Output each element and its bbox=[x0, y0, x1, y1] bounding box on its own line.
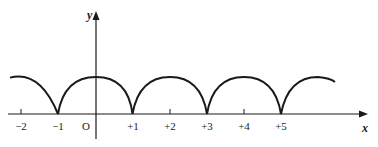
tick-label: +1 bbox=[127, 120, 139, 132]
x-axis-label: x bbox=[361, 121, 368, 135]
tick-label: +5 bbox=[275, 120, 287, 132]
tick-label: −2 bbox=[15, 120, 27, 132]
diagram-canvas: −2 −1 O +1 +2 +3 +4 +5 y x bbox=[0, 0, 378, 147]
tick-label: +4 bbox=[238, 120, 250, 132]
tick-label: +2 bbox=[164, 120, 176, 132]
y-axis-label: y bbox=[85, 8, 93, 22]
arch-curve bbox=[10, 76, 335, 114]
origin-label: O bbox=[82, 120, 90, 132]
tick-label: +3 bbox=[201, 120, 213, 132]
x-axis-arrow-icon bbox=[359, 111, 368, 118]
arch-curve-diagram: −2 −1 O +1 +2 +3 +4 +5 y x bbox=[0, 0, 378, 147]
tick-label: −1 bbox=[52, 120, 64, 132]
y-axis-arrow-icon bbox=[93, 11, 100, 20]
